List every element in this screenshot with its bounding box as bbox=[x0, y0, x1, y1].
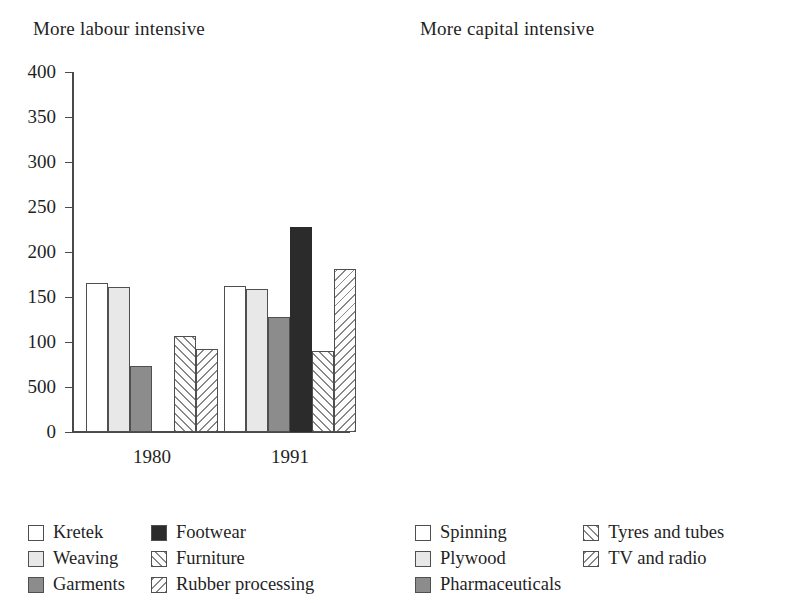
plot-area-left: 4003503002502001501005000 19801991 bbox=[72, 72, 350, 432]
bar-garments-1991 bbox=[268, 317, 290, 432]
bar-weaving-1991 bbox=[246, 289, 268, 432]
bar-furniture-1991 bbox=[312, 351, 334, 432]
legend-label-footwear: Footwear bbox=[176, 522, 246, 543]
figure-two-panel-bar-charts: More labour intensive 400350300250200150… bbox=[0, 0, 786, 603]
legend-left: KretekFootwearWeavingFurnitureGarmentsRu… bbox=[28, 522, 314, 595]
y-tick-label-left-4: 200 bbox=[28, 241, 57, 263]
legend-swatch-spinning bbox=[415, 525, 431, 541]
y-tick-left-1: 350 bbox=[65, 117, 72, 118]
legend-swatch-furniture bbox=[151, 551, 167, 567]
legend-swatch-kretek bbox=[28, 525, 44, 541]
bar-group-left-1991: 1991 bbox=[224, 72, 356, 432]
bar-kretek-1980 bbox=[86, 283, 108, 432]
legend-swatch-tv-and-radio bbox=[583, 551, 599, 567]
legend-label-kretek: Kretek bbox=[53, 522, 103, 543]
legend-label-rubber-processing: Rubber processing bbox=[176, 574, 314, 595]
legend-swatch-tyres-and-tubes bbox=[583, 525, 599, 541]
y-tick-left-5: 150 bbox=[65, 297, 72, 298]
y-tick-label-left-8: 0 bbox=[47, 421, 57, 443]
y-tick-left-8: 0 bbox=[65, 432, 72, 433]
legend-item-plywood[interactable]: Plywood bbox=[415, 548, 561, 569]
legend-item-tyres-and-tubes[interactable]: Tyres and tubes bbox=[583, 522, 724, 543]
y-tick-label-left-6: 100 bbox=[28, 331, 57, 353]
legend-item-footwear[interactable]: Footwear bbox=[151, 522, 314, 543]
legend-label-furniture: Furniture bbox=[176, 548, 245, 569]
y-tick-label-left-7: 500 bbox=[28, 376, 57, 398]
bar-furniture-1980 bbox=[174, 336, 196, 432]
bar-rubber-processing-1980 bbox=[196, 349, 218, 432]
y-tick-label-left-5: 150 bbox=[28, 286, 57, 308]
legend-item-rubber-processing[interactable]: Rubber processing bbox=[151, 574, 314, 595]
y-tick-label-left-2: 300 bbox=[28, 151, 57, 173]
legend-label-pharmaceuticals: Pharmaceuticals bbox=[440, 574, 561, 595]
y-tick-left-2: 300 bbox=[65, 162, 72, 163]
legend-label-plywood: Plywood bbox=[440, 548, 506, 569]
bars-left: 19801991 bbox=[72, 72, 350, 432]
legend-item-garments[interactable]: Garments bbox=[28, 574, 125, 595]
y-tick-left-6: 100 bbox=[65, 342, 72, 343]
legend-swatch-pharmaceuticals bbox=[415, 577, 431, 593]
y-tick-left-4: 200 bbox=[65, 252, 72, 253]
legend-swatch-plywood bbox=[415, 551, 431, 567]
bar-group-left-1980: 1980 bbox=[86, 72, 218, 432]
panel-title-right: More capital intensive bbox=[420, 18, 594, 40]
panel-more-capital-intensive: More capital intensive 40035030025020015… bbox=[393, 0, 786, 603]
y-tick-left-3: 250 bbox=[65, 207, 72, 208]
y-tick-label-left-0: 400 bbox=[28, 61, 57, 83]
legend-item-pharmaceuticals[interactable]: Pharmaceuticals bbox=[415, 574, 561, 595]
legend-swatch-rubber-processing bbox=[151, 577, 167, 593]
legend-label-tv-and-radio: TV and radio bbox=[608, 548, 706, 569]
bar-garments-1980 bbox=[130, 366, 152, 432]
legend-label-garments: Garments bbox=[53, 574, 125, 595]
bar-kretek-1991 bbox=[224, 286, 246, 432]
y-tick-label-left-1: 350 bbox=[28, 106, 57, 128]
panel-more-labour-intensive: More labour intensive 400350300250200150… bbox=[0, 0, 393, 603]
legend-swatch-weaving bbox=[28, 551, 44, 567]
legend-label-weaving: Weaving bbox=[53, 548, 118, 569]
legend-item-spinning[interactable]: Spinning bbox=[415, 522, 561, 543]
panel-title-left: More labour intensive bbox=[33, 18, 205, 40]
legend-item-empty-right-5 bbox=[583, 574, 724, 595]
legend-item-tv-and-radio[interactable]: TV and radio bbox=[583, 548, 724, 569]
legend-label-tyres-and-tubes: Tyres and tubes bbox=[608, 522, 724, 543]
y-tick-left-7: 500 bbox=[65, 387, 72, 388]
legend-swatch-garments bbox=[28, 577, 44, 593]
x-group-label-left-1991: 1991 bbox=[271, 446, 309, 468]
legend-item-weaving[interactable]: Weaving bbox=[28, 548, 125, 569]
legend-item-furniture[interactable]: Furniture bbox=[151, 548, 314, 569]
legend-right: SpinningTyres and tubesPlywoodTV and rad… bbox=[415, 522, 724, 595]
y-tick-left-0: 400 bbox=[65, 72, 72, 73]
y-tick-label-left-3: 250 bbox=[28, 196, 57, 218]
bar-rubber-processing-1991 bbox=[334, 269, 356, 432]
legend-swatch-footwear bbox=[151, 525, 167, 541]
legend-item-kretek[interactable]: Kretek bbox=[28, 522, 125, 543]
legend-label-spinning: Spinning bbox=[440, 522, 507, 543]
bar-footwear-1991 bbox=[290, 227, 312, 432]
bar-weaving-1980 bbox=[108, 287, 130, 432]
x-group-label-left-1980: 1980 bbox=[133, 446, 171, 468]
